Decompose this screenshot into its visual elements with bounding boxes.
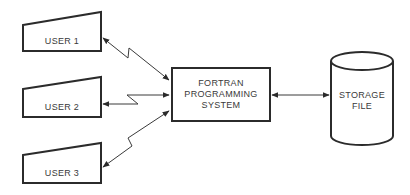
- user-2-label: USER 2: [45, 102, 79, 112]
- system-label-line-3: SYSTEM: [202, 100, 241, 110]
- user-2-terminal: USER 2: [23, 77, 101, 117]
- diagram-canvas: USER 1 USER 2 USER 3 FORTRAN PROGRAMMING…: [0, 0, 410, 195]
- fortran-system-box: FORTRAN PROGRAMMING SYSTEM: [172, 68, 270, 121]
- user-1-label: USER 1: [45, 36, 79, 46]
- cylinder-top: [331, 52, 393, 70]
- link-user1-system: [103, 38, 169, 80]
- user-3-label: USER 3: [45, 168, 79, 178]
- storage-label-line-2: FILE: [352, 101, 372, 111]
- system-label-line-1: FORTRAN: [198, 78, 243, 88]
- user-3-terminal: USER 3: [23, 143, 101, 183]
- link-user3-system: [103, 111, 169, 167]
- user-1-terminal: USER 1: [23, 12, 101, 51]
- link-user2-system: [103, 95, 169, 104]
- system-label-line-2: PROGRAMMING: [184, 89, 257, 99]
- storage-file-cylinder: STORAGE FILE: [331, 52, 393, 145]
- storage-label-line-1: STORAGE: [339, 90, 385, 100]
